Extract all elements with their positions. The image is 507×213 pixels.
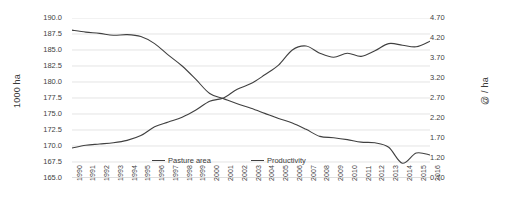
chart-svg [72,18,430,178]
chart-legend: Pasture area Productivity [152,156,306,165]
legend-item-productivity: Productivity [251,156,306,165]
legend-item-pasture-area: Pasture area [152,156,211,165]
legend-swatch-icon [152,160,165,161]
legend-label: Productivity [267,156,306,165]
plot-area [72,18,430,178]
chart-container: 1000 ha @ / ha 190.0187.5185.0182.5180.0… [0,0,507,213]
series-line-productivity [72,41,430,148]
legend-swatch-icon [251,160,264,161]
x-axis-tick-label: 2016 [434,165,441,181]
legend-label: Pasture area [168,156,211,165]
